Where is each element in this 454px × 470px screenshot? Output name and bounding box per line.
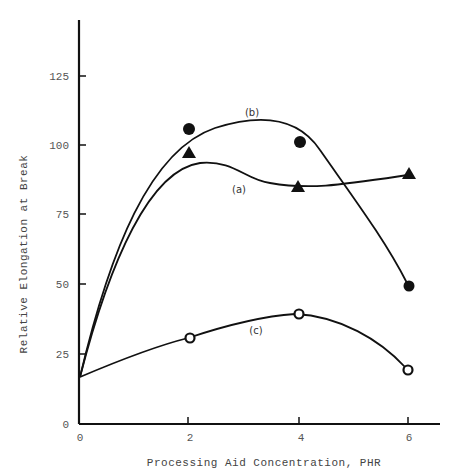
y-axis-title: Relative Elongation at Break [18,155,30,354]
y-tick-label: 25 [56,349,69,361]
x-tick-label: 4 [298,432,305,444]
x-tick-label: 2 [187,432,194,444]
data-point [295,310,304,319]
x-tick-label: 0 [77,432,84,444]
series-a-markers [182,146,416,192]
series-a-label: (a) [232,184,246,195]
y-tick-label: 50 [56,279,69,291]
series-c-markers [186,310,413,375]
series-c-curve [80,314,405,377]
data-point [182,146,196,158]
chart: 0 25 50 75 100 125 0 2 4 6 Processing Ai… [0,0,454,470]
data-point [294,136,306,148]
x-tick-labels: 0 2 4 6 [77,432,413,444]
y-tick-labels: 0 25 50 75 100 125 [49,71,69,431]
series-c-label: (c) [249,325,262,336]
y-tick-label: 75 [56,209,69,221]
data-point [402,167,416,179]
data-point [186,334,195,343]
data-point [404,281,415,292]
y-tick-label: 125 [49,71,69,83]
axes [79,20,440,424]
series-b-label: (b) [245,107,259,118]
y-tick-label: 0 [62,419,69,431]
x-tick-label: 6 [406,432,413,444]
series-b-markers [183,123,415,292]
x-axis-title: Processing Aid Concentration, PHR [147,457,381,469]
data-point [404,366,413,375]
series-b-curve [80,120,407,377]
y-tick-label: 100 [49,140,69,152]
data-point [183,123,195,135]
